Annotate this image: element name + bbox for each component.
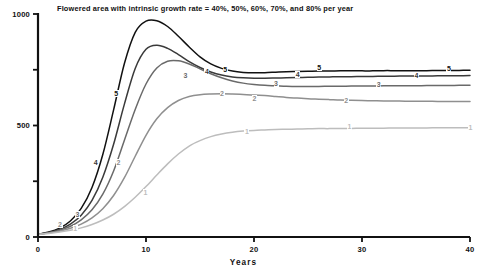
curve-label-5: 5 [446, 65, 451, 72]
x-axis-label: Years [0, 258, 487, 267]
curve-label-1: 1 [143, 189, 148, 196]
curve-label-2: 2 [252, 95, 257, 102]
curve-label-3: 3 [274, 80, 279, 87]
curve-label-2: 2 [220, 90, 225, 97]
x-tick-label-40: 40 [455, 245, 485, 254]
y-tick-label-500: 500 [0, 121, 30, 130]
curve-label-4: 4 [93, 159, 98, 166]
curve-label-2: 2 [58, 221, 63, 228]
x-tick-label-0: 0 [23, 245, 53, 254]
curve-label-4: 4 [204, 68, 209, 75]
curve-label-5: 5 [317, 64, 322, 71]
curve-series-1 [38, 128, 470, 235]
curve-label-2: 2 [116, 159, 121, 166]
curve-label-4: 4 [295, 71, 300, 78]
x-tick-label-10: 10 [131, 245, 161, 254]
chart-figure: Flowered area with intrinsic growth rate… [0, 0, 487, 277]
x-tick-label-20: 20 [239, 245, 269, 254]
curve-series-group [38, 20, 470, 234]
curve-label-3: 3 [376, 81, 381, 88]
curve-label-1: 1 [244, 128, 249, 135]
curve-label-1: 1 [468, 124, 473, 131]
y-tick-label-0: 0 [0, 233, 30, 242]
y-tick-label-1000: 1000 [0, 10, 30, 19]
curve-label-4: 4 [414, 72, 419, 79]
curve-label-5: 5 [223, 66, 228, 73]
x-tick-label-30: 30 [347, 245, 377, 254]
curve-label-5: 5 [114, 90, 119, 97]
curve-label-2: 2 [344, 97, 349, 104]
curve-label-1: 1 [347, 123, 352, 130]
curve-series-2 [38, 94, 470, 234]
curve-label-3: 3 [183, 72, 188, 79]
chart-plot-area [0, 0, 487, 277]
curve-series-5 [38, 20, 470, 234]
curve-label-3: 3 [75, 211, 80, 218]
curve-label-1: 1 [73, 225, 78, 232]
